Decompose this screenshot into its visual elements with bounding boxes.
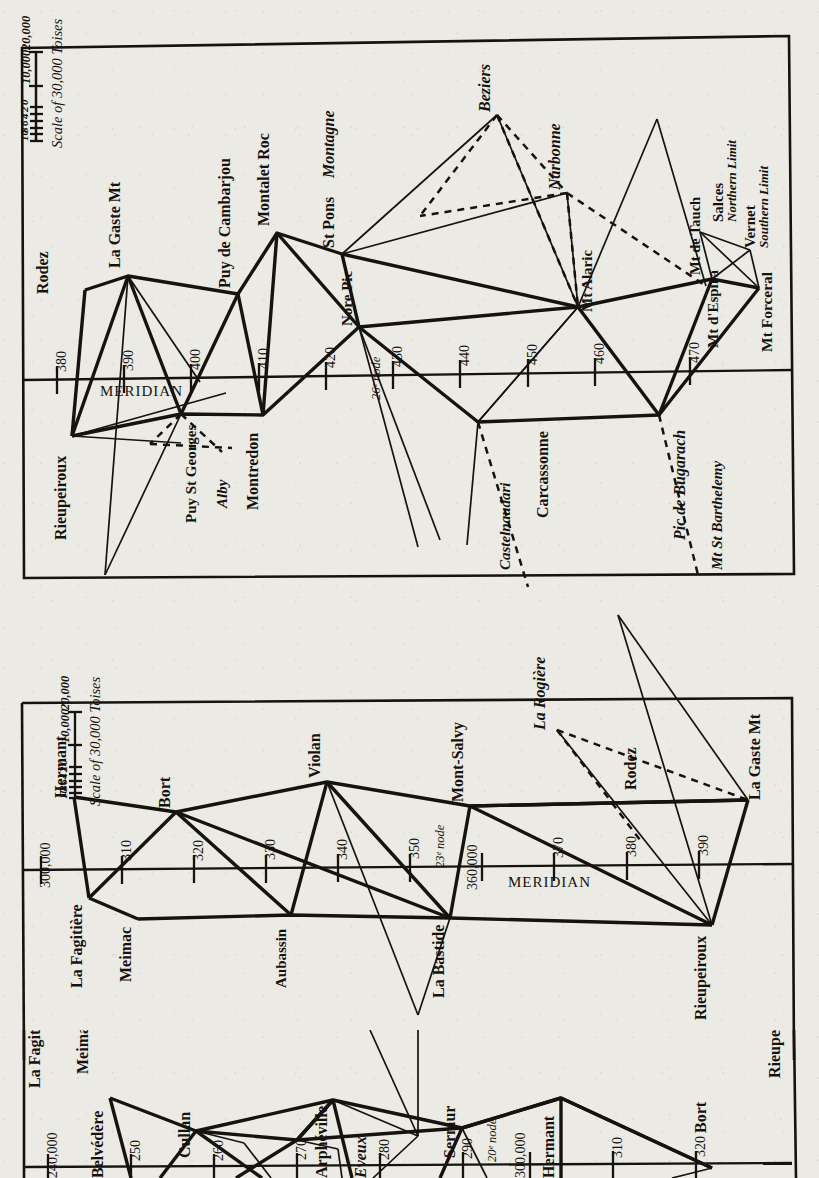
station-pic-de-bugarach: Pic de Bugarach: [671, 430, 689, 541]
tick-250: 250: [128, 1140, 143, 1161]
panel-frame-right: [794, 1030, 796, 1178]
station-belvedere: Belvédère: [89, 1111, 106, 1178]
tick-390: 390: [121, 350, 136, 371]
station-mt-alaric: Mt Alaric: [579, 250, 595, 312]
station-narbonne: Narbonne: [546, 123, 563, 191]
station-arpheville: Arphéville: [313, 1106, 331, 1178]
meridian-tick-labels: 240,000 250 260 270 280 290 300,000 310 …: [45, 1133, 708, 1178]
node-label-20: 20ᵉ node: [485, 1118, 499, 1162]
scale-label-20000: 20,000: [19, 15, 33, 51]
tick-380: 380: [624, 836, 639, 857]
station-puy-st-georges: Puy St Georges: [183, 425, 199, 523]
station-la-gaste-mt: La Gaste Mt: [106, 181, 123, 268]
station-rieupeiroux: Rieupeiroux: [766, 1030, 784, 1078]
station-hermant: Hermant: [540, 1115, 557, 1178]
station-la-fagitiere: La Fagitière: [68, 904, 86, 988]
station-southern-limit: Southern Limit: [756, 166, 771, 248]
tick-300000: 300,000: [513, 1133, 528, 1178]
station-la-gaste-mt: La Gaste Mt: [746, 713, 763, 800]
middle-triangulation-panel: 20,000 10,000 0 2 4 6 8 10 Scale of 30,0…: [0, 590, 819, 1060]
station-rodez: Rodez: [622, 747, 639, 790]
tick-380: 380: [54, 351, 69, 372]
station-castelnaudari: Castelnaudari: [497, 482, 513, 570]
station-cullan: Cullan: [176, 1112, 193, 1158]
lower-panel-svg: 240,000 250 260 270 280 290 300,000 310 …: [0, 1030, 819, 1178]
scale-minor-4: 4: [18, 113, 30, 120]
tick-440: 440: [457, 345, 472, 366]
scale-major-labels: 20,000 10,000: [19, 15, 33, 84]
station-meimac: Meimac: [117, 927, 134, 982]
station-northern-limit: Northern Limit: [724, 140, 739, 223]
scale-major-labels: 20,000 10,000: [58, 675, 72, 743]
station-beziers: Beziers: [476, 64, 493, 113]
upper-panel-svg: 20,000 10,000 0 2 4 6 8 10 Scale of 30,0…: [0, 0, 819, 600]
scale-minor-labels: 0 2 4 6 8 10: [18, 99, 30, 141]
node-label-23: 23ᵉ node: [433, 824, 447, 868]
scale-minor-2: 2: [18, 106, 30, 113]
station-mont-salvy: Mont-Salvy: [449, 722, 467, 802]
panel-frame-left: [22, 703, 24, 1060]
scale-minor-6: 6: [18, 120, 30, 126]
station-mt-forceral: Mt Forceral: [758, 271, 775, 352]
station-la-rogiere: La Rogière: [531, 657, 549, 731]
station-eveux: Eveux: [352, 1136, 369, 1178]
station-rodez: Rodez: [34, 251, 51, 294]
tick-320: 320: [191, 840, 206, 861]
station-rieupeiroux: Rieupeiroux: [692, 936, 710, 1020]
panel-frame: [22, 698, 794, 1060]
tick-240000: 240,000: [45, 1133, 60, 1178]
dashed-sights: [557, 730, 748, 840]
meridian-axis-label: MERIDIAN: [508, 874, 591, 890]
station-montredon: Montredon: [244, 433, 261, 510]
tick-320: 320: [693, 1136, 708, 1157]
station-violan: Violan: [306, 733, 323, 778]
tick-460: 460: [592, 343, 607, 364]
station-alby: Alby: [214, 479, 230, 509]
station-mt-de-tauch: Mt de Tauch: [687, 197, 703, 275]
lower-triangulation-panel-partial: 240,000 250 260 270 280 290 300,000 310 …: [0, 1030, 819, 1178]
station-la-bastide: La Bastide: [430, 925, 447, 998]
station-mt-despira: Mt d'Espira: [705, 270, 721, 348]
station-rieupeiroux: Rieupeiroux: [52, 456, 70, 540]
scale-minor-10: 10: [18, 130, 30, 142]
station-montagne: Montagne: [320, 110, 338, 179]
tick-340: 340: [335, 839, 350, 860]
secondary-rays: [72, 115, 759, 575]
station-sermur: Sermur: [441, 1106, 458, 1158]
scale-label-20000: 20,000: [58, 675, 72, 711]
station-bort: Bort: [692, 1101, 709, 1133]
primary-network: [72, 233, 759, 436]
tick-350: 350: [407, 838, 422, 859]
dashed-sights: [150, 115, 706, 587]
station-nore-pic: Nore Pic: [339, 271, 355, 326]
scale-caption: Scale of 30,000 Toises: [87, 676, 103, 806]
tick-280: 280: [377, 1139, 392, 1160]
station-meimac: Meimac: [74, 1030, 91, 1074]
station-bort: Bort: [156, 776, 173, 808]
scale-caption: Scale of 30,000 Toises: [49, 18, 65, 148]
station-hermant: Hermant: [52, 735, 69, 798]
station-carcassonne: Carcassonne: [534, 431, 551, 518]
station-montalet-roc: Montalet Roc: [255, 133, 272, 226]
tick-300000: 300,000: [38, 843, 53, 889]
scale-label-10000: 10,000: [19, 49, 33, 84]
upper-triangulation-panel: 20,000 10,000 0 2 4 6 8 10 Scale of 30,0…: [0, 0, 819, 600]
station-aubassin: Aubassin: [273, 928, 289, 988]
station-la-fagitiere: La Fagitière: [26, 1030, 44, 1088]
tick-470: 470: [687, 342, 702, 363]
station-st-pons: St Pons: [320, 197, 337, 248]
tick-390: 390: [696, 835, 711, 856]
meridian-tick-labels: 300,000 310 320 330 340 350 360,000 370 …: [38, 835, 711, 890]
station-puy-de-cambarjou: Puy de Cambarjou: [216, 158, 234, 288]
station-mt-st-barthelemy: Mt St Barthelemy: [709, 460, 725, 571]
tick-310: 310: [610, 1137, 625, 1158]
diagram-page: 20,000 10,000 0 2 4 6 8 10 Scale of 30,0…: [0, 0, 819, 1178]
tick-360000: 360,000: [465, 845, 480, 891]
scale-minor-0: 0: [18, 99, 30, 105]
middle-panel-svg: 20,000 10,000 0 2 4 6 8 10 Scale of 30,0…: [0, 590, 819, 1060]
